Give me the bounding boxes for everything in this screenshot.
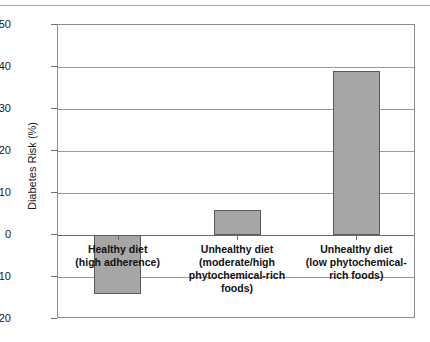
x-tick-mark-0 [118, 235, 119, 240]
y-axis-label: Diabetes Risk (%) [26, 46, 38, 286]
y-tick-label-20: 20 [0, 144, 11, 156]
bar-2 [333, 71, 380, 235]
y-tick-label-0: 0 [0, 228, 11, 240]
y-tick-label--20: −20 [0, 312, 11, 324]
category-label-1: Unhealthy diet (moderate/high phytochemi… [177, 243, 296, 295]
y-tick-label--10: −10 [0, 270, 11, 282]
category-label-0: Healthy diet (high adherence) [58, 243, 177, 269]
plot-area: Healthy diet (high adherence)Unhealthy d… [57, 24, 415, 318]
bar-1 [214, 210, 261, 235]
x-tick-mark-2 [356, 235, 357, 240]
category-label-2: Unhealthy diet (low phytochemical- rich … [297, 243, 416, 282]
figure-top-rule [0, 5, 430, 6]
y-tick-mark--20 [51, 318, 57, 319]
gridline-40 [58, 67, 414, 68]
x-tick-mark-1 [237, 235, 238, 240]
y-tick-label-10: 10 [0, 186, 11, 198]
chart-figure: Diabetes Risk (%) 50403020100−10−20 Heal… [0, 0, 430, 342]
y-tick-label-30: 30 [0, 102, 11, 114]
y-tick-label-50: 50 [0, 18, 11, 30]
y-tick-label-40: 40 [0, 60, 11, 72]
